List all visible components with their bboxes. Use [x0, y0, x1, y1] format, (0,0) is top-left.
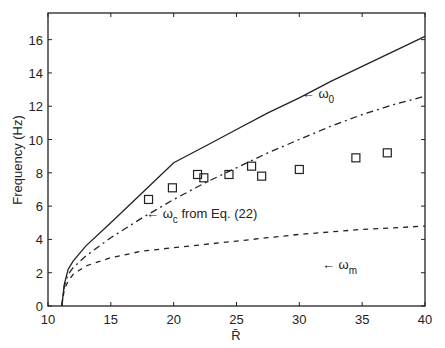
x-tick-label: 30: [292, 312, 306, 327]
x-tick-label: 10: [41, 312, 55, 327]
y-tick-label: 14: [29, 66, 43, 81]
x-tick-label: 15: [104, 312, 118, 327]
square-marker: [248, 162, 256, 170]
series-line-dash-dot: [62, 96, 425, 306]
y-tick-label: 0: [36, 299, 43, 314]
plot-frame: [48, 13, 425, 306]
plot-area-border: [48, 13, 425, 306]
y-tick-label: 4: [36, 232, 43, 247]
square-marker: [258, 172, 266, 180]
x-axis-label: R̄: [231, 328, 240, 343]
square-marker: [168, 184, 176, 192]
frequency-chart: 101520253035400246810121416 ← ω0← ωc fro…: [0, 0, 445, 348]
square-marker: [352, 154, 360, 162]
square-marker: [295, 165, 303, 173]
series-line-solid: [62, 36, 425, 306]
y-axis-label: Frequency (Hz): [10, 115, 25, 205]
y-tick-label: 10: [29, 133, 43, 148]
series-annotation: ← ωm: [322, 257, 357, 276]
series-line-dashed: [62, 226, 425, 306]
y-tick-label: 2: [36, 266, 43, 281]
y-tick-label: 16: [29, 33, 43, 48]
y-tick-label: 8: [36, 166, 43, 181]
x-tick-label: 25: [229, 312, 243, 327]
series-lines: [62, 36, 425, 306]
square-marker: [145, 195, 153, 203]
series-annotation: ← ωc from Eq. (22): [146, 206, 257, 225]
y-tick-label: 12: [29, 99, 43, 114]
square-marker: [383, 149, 391, 157]
x-tick-label: 40: [418, 312, 432, 327]
series-annotation: ← ω0: [302, 86, 335, 105]
x-tick-label: 35: [355, 312, 369, 327]
x-tick-label: 20: [166, 312, 180, 327]
y-tick-label: 6: [36, 199, 43, 214]
